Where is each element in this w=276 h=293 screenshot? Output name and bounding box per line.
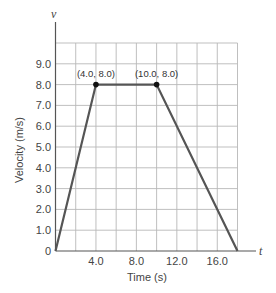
y-tick-label: 7.0: [36, 99, 51, 111]
x-axis-symbol: t: [259, 244, 263, 258]
series-line: (4.0, 8.0)(10.0, 8.0): [56, 68, 238, 251]
data-point-marker: [93, 82, 99, 88]
y-tick-label: 6.0: [36, 120, 51, 132]
y-axis-label: Velocity (m/s): [13, 117, 25, 183]
x-axis-label: Time (s): [127, 271, 167, 283]
y-tick-label: 3.0: [36, 183, 51, 195]
tick-labels: 4.08.012.016.001.02.03.04.05.06.07.08.09…: [36, 58, 228, 267]
data-point-annotation: (10.0, 8.0): [135, 68, 178, 79]
x-tick-label: 16.0: [207, 255, 228, 267]
y-tick-label: 5.0: [36, 141, 51, 153]
y-tick-label: 9.0: [36, 58, 51, 70]
data-point-annotation: (4.0, 8.0): [77, 68, 115, 79]
axes: [56, 22, 257, 251]
data-point-marker: [154, 82, 160, 88]
y-tick-label: 2.0: [36, 203, 51, 215]
x-tick-label: 12.0: [166, 255, 187, 267]
y-axis-symbol: v: [51, 7, 57, 21]
x-tick-label: 8.0: [129, 255, 144, 267]
y-tick-label: 1.0: [36, 224, 51, 236]
velocity-time-chart: (4.0, 8.0)(10.0, 8.0) 4.08.012.016.001.0…: [0, 0, 276, 293]
x-tick-label: 4.0: [88, 255, 103, 267]
y-tick-label: 8.0: [36, 79, 51, 91]
y-tick-label: 4.0: [36, 162, 51, 174]
y-tick-label: 0: [45, 245, 51, 257]
